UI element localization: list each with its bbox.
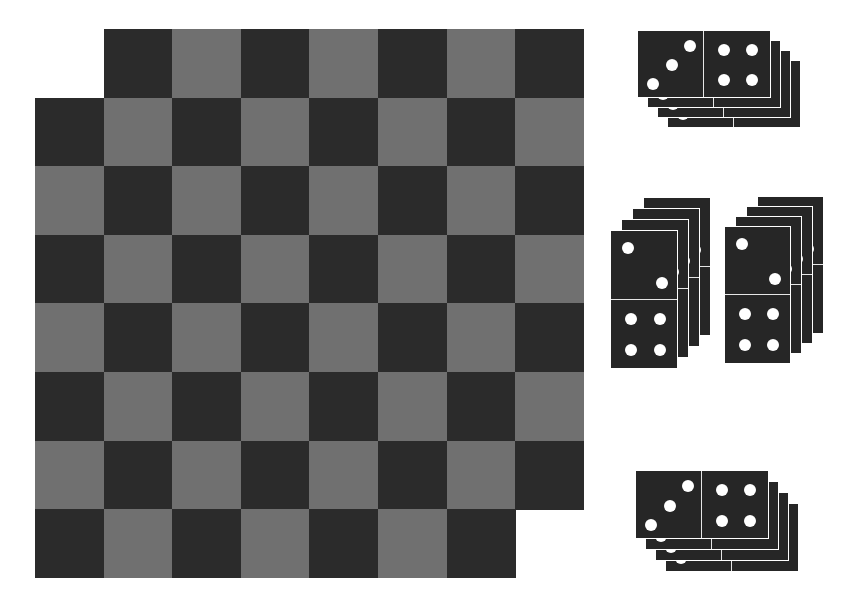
board-square[interactable]: [35, 303, 104, 372]
board-square[interactable]: [104, 235, 173, 304]
domino-half: [704, 31, 770, 97]
board-square[interactable]: [35, 372, 104, 441]
board-square[interactable]: [104, 29, 173, 98]
board-square[interactable]: [104, 509, 173, 578]
board-square[interactable]: [241, 98, 310, 167]
board-square[interactable]: [241, 29, 310, 98]
board-square[interactable]: [241, 372, 310, 441]
pip: [744, 515, 756, 527]
pip: [767, 339, 779, 351]
domino-tile[interactable]: [635, 470, 769, 539]
board-square[interactable]: [447, 303, 516, 372]
pip: [767, 308, 779, 320]
board-square[interactable]: [241, 441, 310, 510]
board-square[interactable]: [172, 235, 241, 304]
board-square[interactable]: [515, 98, 584, 167]
board-square[interactable]: [104, 372, 173, 441]
domino-half: [636, 471, 702, 538]
board-square[interactable]: [378, 29, 447, 98]
pip: [647, 78, 659, 90]
board-square[interactable]: [104, 98, 173, 167]
board-square[interactable]: [104, 166, 173, 235]
board-square[interactable]: [515, 441, 584, 510]
board-square[interactable]: [309, 166, 378, 235]
pip: [622, 242, 634, 254]
pip: [769, 273, 781, 285]
board-square[interactable]: [104, 303, 173, 372]
board-square[interactable]: [241, 166, 310, 235]
board-square[interactable]: [515, 303, 584, 372]
board-square[interactable]: [172, 29, 241, 98]
domino-tile[interactable]: [724, 226, 791, 364]
pip: [666, 59, 678, 71]
domino-half: [611, 231, 677, 300]
pip: [664, 500, 676, 512]
board-square[interactable]: [378, 235, 447, 304]
board-square[interactable]: [515, 29, 584, 98]
board-square[interactable]: [515, 166, 584, 235]
pip: [716, 515, 728, 527]
board-square[interactable]: [35, 235, 104, 304]
board-square[interactable]: [172, 303, 241, 372]
domino-half: [702, 471, 768, 538]
board-square[interactable]: [241, 235, 310, 304]
pip: [744, 484, 756, 496]
pip: [736, 238, 748, 250]
pip: [716, 484, 728, 496]
board-square[interactable]: [35, 98, 104, 167]
board-square[interactable]: [35, 166, 104, 235]
board-square[interactable]: [172, 509, 241, 578]
pip: [718, 74, 730, 86]
pip: [739, 308, 751, 320]
board-square[interactable]: [515, 235, 584, 304]
board-square[interactable]: [172, 372, 241, 441]
pip: [625, 344, 637, 356]
board-square[interactable]: [309, 29, 378, 98]
domino-half: [725, 227, 790, 295]
domino-tile[interactable]: [610, 230, 678, 369]
board-square[interactable]: [447, 98, 516, 167]
board-square[interactable]: [172, 441, 241, 510]
board-square[interactable]: [378, 441, 447, 510]
domino-half: [725, 295, 790, 363]
domino-tile[interactable]: [637, 30, 771, 98]
board-square[interactable]: [309, 98, 378, 167]
board-square[interactable]: [447, 29, 516, 98]
pip: [684, 40, 696, 52]
pip: [654, 344, 666, 356]
board-square[interactable]: [241, 303, 310, 372]
board-square[interactable]: [378, 372, 447, 441]
board-square[interactable]: [447, 441, 516, 510]
board-square[interactable]: [172, 166, 241, 235]
board-square[interactable]: [447, 509, 516, 578]
board-square[interactable]: [378, 98, 447, 167]
board-square[interactable]: [309, 235, 378, 304]
board-square[interactable]: [35, 441, 104, 510]
board-square[interactable]: [378, 509, 447, 578]
pip: [654, 313, 666, 325]
pip: [718, 44, 730, 56]
pip: [682, 480, 694, 492]
pip: [746, 44, 758, 56]
board-square[interactable]: [104, 441, 173, 510]
domino-half: [611, 300, 677, 369]
pip: [739, 339, 751, 351]
board-square[interactable]: [447, 166, 516, 235]
board-square[interactable]: [35, 509, 104, 578]
pip: [656, 277, 668, 289]
pip: [645, 519, 657, 531]
board-square[interactable]: [447, 372, 516, 441]
board-square[interactable]: [515, 372, 584, 441]
board-square[interactable]: [172, 98, 241, 167]
pip: [746, 74, 758, 86]
board-square[interactable]: [309, 441, 378, 510]
board-square[interactable]: [378, 166, 447, 235]
pip: [625, 313, 637, 325]
domino-half: [638, 31, 704, 97]
board-square[interactable]: [309, 303, 378, 372]
board-square[interactable]: [241, 509, 310, 578]
board-square[interactable]: [309, 509, 378, 578]
board-square[interactable]: [309, 372, 378, 441]
board-square[interactable]: [378, 303, 447, 372]
board-square[interactable]: [447, 235, 516, 304]
